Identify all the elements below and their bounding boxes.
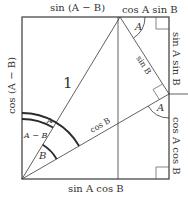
label-angle-origin-b: B [38,150,46,161]
right-angle-top-right [156,17,169,29]
label-sin-a-minus-b: sin (A − B) [50,2,105,13]
trig-identity-diagram: sin (A − B) cos A sin B sin A sin B cos … [0,0,188,197]
hypotenuse-line [22,17,120,179]
label-angle-origin-a: A [46,116,53,125]
label-hypotenuse-one: 1 [63,74,73,92]
label-cos-a-minus-b: cos (A − B) [6,57,17,114]
label-sin-a-cos-b: sin A cos B [68,183,124,194]
label-sin-b: sin B [134,54,153,76]
label-angle-top-a: A [134,21,142,32]
right-angle-at-right-vertex [153,84,163,100]
sin-b-line [120,17,169,94]
label-angle-right-a: A [156,102,164,113]
label-cos-a-sin-b: cos A sin B [122,4,178,15]
label-cos-a-cos-b: cos A cos B [171,117,182,175]
label-sin-a-sin-b: sin A sin B [171,32,182,86]
label-angle-origin-a-minus-b: A − B [23,131,48,140]
right-angle-bottom-right [156,167,169,179]
label-cos-b: cos B [89,116,113,135]
